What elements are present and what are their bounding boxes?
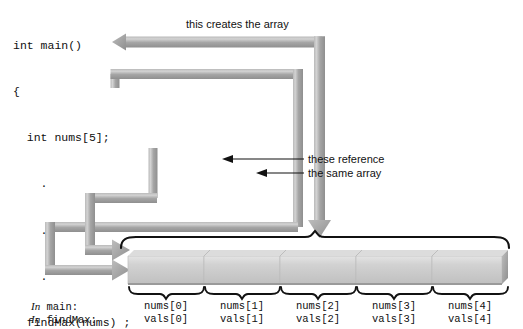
cell-label-main-1: nums[1]: [204, 300, 280, 312]
arrow-to-array-top: [308, 37, 331, 239]
code-line: .: [13, 269, 179, 284]
array-cell-braces: [129, 287, 508, 299]
code-line: int main(): [13, 38, 179, 53]
diagram-canvas: int main() { int nums[5]; . . . findMax(…: [0, 0, 523, 329]
row-label-findmax: In findMax:: [31, 313, 97, 326]
code-listing: int main() { int nums[5]; . . . findMax(…: [13, 7, 179, 329]
cell-label-findmax-1: vals[1]: [204, 313, 280, 325]
row-label-findmax-name: findMax:: [46, 314, 96, 326]
array-cells: [128, 250, 508, 285]
row-label-findmax-prefix: In: [31, 313, 40, 325]
array-top-brace: [121, 231, 509, 248]
row-label-main-prefix: In: [31, 300, 40, 312]
code-line: .: [13, 223, 179, 238]
cell-label-main-0: nums[0]: [128, 300, 204, 312]
annotation-creates-array: this creates the array: [186, 18, 289, 30]
row-label-main: In main:: [31, 300, 78, 313]
code-line: .: [13, 176, 179, 191]
annotation-reference-line1: these reference: [308, 153, 384, 165]
annotation-reference-line2: the same array: [308, 167, 381, 179]
leader-arrowheads: [222, 155, 267, 177]
cell-label-findmax-3: vals[3]: [356, 313, 432, 325]
cell-label-main-2: nums[2]: [280, 300, 356, 312]
code-line: int nums[5];: [13, 130, 179, 145]
row-label-main-name: main:: [46, 301, 78, 313]
code-line: {: [13, 84, 179, 99]
cell-label-findmax-4: vals[4]: [432, 313, 508, 325]
cell-label-findmax-0: vals[0]: [128, 313, 204, 325]
cell-label-findmax-2: vals[2]: [280, 313, 356, 325]
cell-label-main-4: nums[4]: [432, 300, 508, 312]
cell-label-main-3: nums[3]: [356, 300, 432, 312]
